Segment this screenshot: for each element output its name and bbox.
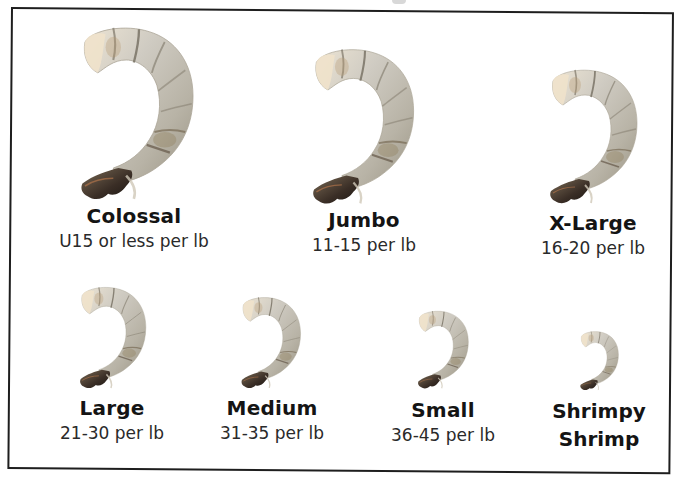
size-count: 16-20 per lb (541, 237, 645, 259)
size-label-large: Large 21-30 per lb (60, 396, 164, 444)
title-fragment (392, 0, 406, 4)
size-label-x-large: X-Large 16-20 per lb (541, 211, 645, 259)
shrimp-icon (74, 24, 204, 204)
shrimp-icon (76, 285, 152, 391)
size-label-medium: Medium 31-35 per lb (220, 396, 324, 444)
size-count: 36-45 per lb (391, 424, 495, 446)
size-label-colossal: Colossal U15 or less per lb (59, 204, 209, 252)
size-count: 21-30 per lb (60, 422, 164, 444)
shrimp-icon (306, 46, 424, 208)
size-name: Colossal (59, 204, 209, 228)
size-label-jumbo: Jumbo 11-15 per lb (312, 208, 416, 256)
shrimp-icon (415, 309, 473, 391)
size-count: 31-35 per lb (220, 422, 324, 444)
size-name-line2: Shrimp (552, 425, 646, 453)
size-count: U15 or less per lb (59, 230, 209, 252)
shrimp-icon (578, 330, 622, 392)
size-name-line1: Shrimpy (552, 397, 646, 425)
shrimp-icon (238, 295, 306, 391)
size-name: Medium (220, 396, 324, 420)
size-name: Large (60, 396, 164, 420)
size-name: X-Large (541, 211, 645, 235)
size-name: Jumbo (312, 208, 416, 232)
size-name: Small (391, 398, 495, 422)
size-count: 11-15 per lb (312, 234, 416, 256)
size-label-small: Small 36-45 per lb (391, 398, 495, 446)
size-label-shrimpy-shrimp: Shrimpy Shrimp (552, 397, 646, 453)
shrimp-icon (545, 66, 645, 208)
